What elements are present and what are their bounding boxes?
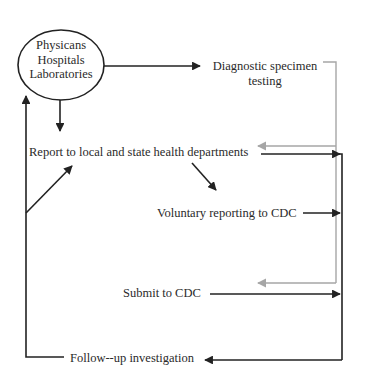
submit-node-label: Submit to CDC — [123, 286, 201, 301]
voluntary-node-label: Voluntary reporting to CDC — [157, 206, 297, 221]
followup-node-label: Follow--up investigation — [70, 351, 194, 366]
source-node-label: Physicans Hospitals Laboratories — [19, 38, 103, 82]
arrow-followup-to-source — [26, 96, 64, 357]
report-node-label: Report to local and state health departm… — [29, 145, 248, 160]
diagnostic-line-1: Diagnostic specimen — [208, 59, 322, 74]
source-line-physicians: Physicans — [19, 38, 103, 53]
diagnostic-line-2: testing — [208, 74, 322, 89]
diagnostic-node-label: Diagnostic specimen testing — [208, 59, 322, 89]
source-line-laboratories: Laboratories — [19, 67, 103, 82]
grey-connector-diagnostic — [323, 62, 336, 283]
arrow-report-to-voluntary — [192, 163, 216, 190]
arrow-followup-to-report — [26, 166, 72, 213]
source-line-hospitals: Hospitals — [19, 53, 103, 68]
cdc-collector-line — [336, 154, 342, 360]
